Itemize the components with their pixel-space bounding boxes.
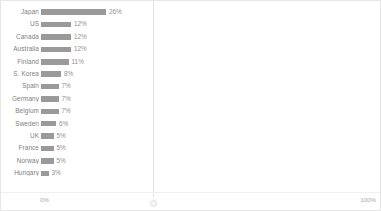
bar[interactable] <box>41 9 106 15</box>
bar-track: 5% <box>41 130 381 142</box>
bar[interactable] <box>41 59 69 65</box>
bar-category-label: Canada <box>1 34 39 40</box>
bar-row: Spain7% <box>1 80 381 92</box>
bar-track: 12% <box>41 31 381 43</box>
bar-track: 11% <box>41 56 381 68</box>
bar-track: 7% <box>41 80 381 92</box>
bar-row: Norway5% <box>1 155 381 167</box>
bar-row: US12% <box>1 18 381 30</box>
bar-track: 12% <box>41 18 381 30</box>
bar-category-label: UK <box>1 133 39 139</box>
axis-handle-icon[interactable] <box>146 195 161 206</box>
bar-category-label: Australia <box>1 46 39 52</box>
bar-row: Japan26% <box>1 6 381 18</box>
bar-value-label: 6% <box>59 121 68 127</box>
bar-row: Belgium7% <box>1 105 381 117</box>
bar-row: France5% <box>1 142 381 154</box>
bar-value-label: 8% <box>64 71 73 77</box>
bar-value-label: 12% <box>74 21 87 27</box>
bar-row: Australia12% <box>1 43 381 55</box>
bar-row: Sweden6% <box>1 118 381 130</box>
bar-value-label: 12% <box>74 34 87 40</box>
bar-value-label: 11% <box>72 59 84 65</box>
bar-category-label: Japan <box>1 9 39 15</box>
axis-tick-labels: 0% 100% <box>1 195 381 209</box>
bar-track: 6% <box>41 118 381 130</box>
bar-category-label: US <box>1 21 39 27</box>
bar-value-label: 7% <box>62 83 71 89</box>
bar[interactable] <box>41 47 71 53</box>
bar-category-label: Sweden <box>1 121 39 127</box>
bar-row: S. Korea8% <box>1 68 381 80</box>
bar-category-label: Belgium <box>1 108 39 114</box>
bar-track: 5% <box>41 142 381 154</box>
bar-category-label: Hungary <box>1 170 39 176</box>
bar-value-label: 5% <box>57 133 66 139</box>
bar-track: 5% <box>41 155 381 167</box>
horizontal-bar-chart: Japan26%US12%Canada12%Australia12%Finlan… <box>0 0 381 211</box>
bar-row: Hungary3% <box>1 167 381 179</box>
bar-track: 26% <box>41 6 381 18</box>
bar-value-label: 7% <box>62 108 71 114</box>
bar[interactable] <box>41 171 49 177</box>
bar-track: 8% <box>41 68 381 80</box>
bar-category-label: S. Korea <box>1 71 39 77</box>
bar[interactable] <box>41 158 54 164</box>
bar-row: Canada12% <box>1 31 381 43</box>
bar-row: UK5% <box>1 130 381 142</box>
bar-track: 7% <box>41 105 381 117</box>
bar-rows-container: Japan26%US12%Canada12%Australia12%Finlan… <box>1 6 381 179</box>
bar[interactable] <box>41 146 54 152</box>
bar-value-label: 5% <box>57 145 66 151</box>
bar-value-label: 26% <box>109 9 122 15</box>
axis-tick-min: 0% <box>40 197 49 203</box>
bar-category-label: Finland <box>1 59 39 65</box>
bar-row: Finland11% <box>1 56 381 68</box>
axis-separator-rule <box>1 192 380 193</box>
bar[interactable] <box>41 22 71 28</box>
bar-track: 3% <box>41 167 381 179</box>
bar-category-label: France <box>1 145 39 151</box>
bar-track: 7% <box>41 93 381 105</box>
bar[interactable] <box>41 109 59 115</box>
bar-value-label: 7% <box>62 96 71 102</box>
bar[interactable] <box>41 71 61 77</box>
bar-value-label: 3% <box>52 170 61 176</box>
bar-value-label: 12% <box>74 46 87 52</box>
bar[interactable] <box>41 84 59 90</box>
bar-category-label: Germany <box>1 96 39 102</box>
bar-category-label: Spain <box>1 83 39 89</box>
axis-tick-max: 100% <box>360 197 376 203</box>
bar-category-label: Norway <box>1 158 39 164</box>
bar[interactable] <box>41 121 56 127</box>
bar[interactable] <box>41 96 59 102</box>
bar-track: 12% <box>41 43 381 55</box>
bar-row: Germany7% <box>1 93 381 105</box>
bar[interactable] <box>41 133 54 139</box>
bar[interactable] <box>41 34 71 40</box>
bar-value-label: 5% <box>57 158 66 164</box>
